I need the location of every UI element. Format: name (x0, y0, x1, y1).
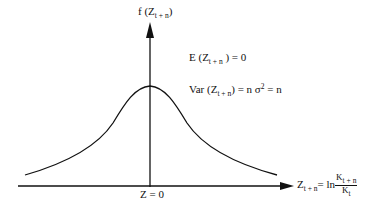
y-label-sub: t + n (155, 11, 169, 20)
expectation-sub: t + n (209, 57, 223, 66)
x-label-equals: = ln (318, 178, 336, 190)
y-label-func: f (138, 5, 142, 17)
origin-label: Z = 0 (140, 189, 164, 200)
y-label-var: Z (148, 5, 155, 17)
variance-mid: ) = n σ (231, 83, 261, 95)
expectation-suffix: ) = 0 (223, 51, 247, 63)
variance-annotation: Var (Zt + n) = n σ2 = n (189, 83, 282, 98)
x-axis-arrow-icon (280, 182, 294, 190)
expectation-annotation: E (Zt + n ) = 0 (189, 52, 246, 66)
expectation-prefix: E (Z (189, 51, 209, 63)
y-axis-arrow-icon (146, 22, 154, 38)
variance-prefix: Var (Z (189, 83, 217, 95)
denominator-sub: t (348, 189, 350, 198)
x-label-sub: t + n (304, 184, 318, 193)
numerator-sub: t + n (343, 176, 357, 185)
fraction-numerator: Kt + n (335, 173, 357, 186)
variance-suffix: = n (265, 83, 282, 95)
density-curve (25, 86, 277, 175)
fraction-denominator: Kt (335, 186, 357, 198)
x-label-fraction: Kt + nKt (335, 173, 357, 199)
y-axis-label: f (Zt + n) (138, 6, 172, 20)
x-label-var: Z (297, 178, 304, 190)
x-axis-label: Zt + n= lnKt + nKt (297, 173, 357, 199)
variance-sub: t + n (217, 89, 231, 98)
